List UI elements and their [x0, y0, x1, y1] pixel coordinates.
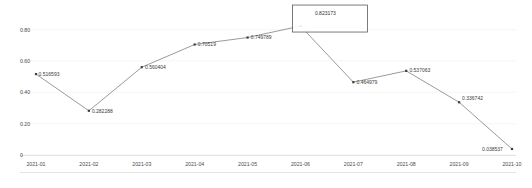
- data-point-marker[interactable]: [141, 66, 143, 68]
- chart-plot-area: 00.200.400.600.80 2021-012021-022021-032…: [0, 0, 532, 188]
- line-chart-container: 00.200.400.600.80 2021-012021-022021-032…: [0, 0, 532, 188]
- data-point-label: 0.70519: [198, 41, 216, 47]
- y-axis-tick-label: 0.60: [20, 58, 30, 64]
- x-axis-tick-label: 2021-03: [132, 161, 151, 167]
- x-axis-tick-label: 2021-06: [291, 161, 310, 167]
- x-axis-tick-label: 2021-07: [344, 161, 363, 167]
- x-axis-tick-label: 2021-05: [238, 161, 257, 167]
- x-axis-tick-label: 2021-08: [397, 161, 416, 167]
- data-point-marker[interactable]: [194, 43, 196, 45]
- x-tick-labels-group: 2021-012021-022021-032021-042021-052021-…: [26, 161, 521, 167]
- data-point-label: 0.336742: [462, 95, 483, 101]
- x-axis-tick-label: 2021-01: [26, 161, 45, 167]
- data-point-label: 0.560404: [145, 64, 166, 70]
- data-point-marker[interactable]: [458, 101, 460, 103]
- highlight-selection-label: 0.823173: [315, 10, 336, 16]
- gridlines-group: [20, 30, 516, 155]
- data-point-label: 0.038537: [482, 146, 503, 152]
- x-axis-tick-label: 2021-09: [450, 161, 469, 167]
- data-point-marker[interactable]: [35, 73, 37, 75]
- y-tick-labels-group: 00.200.400.600.80: [20, 27, 30, 158]
- y-axis-tick-label: 0.40: [20, 89, 30, 95]
- data-point-label: 0.464979: [357, 79, 378, 85]
- data-point-label: 0.749789: [251, 34, 272, 40]
- y-axis-tick-label: 0.80: [20, 27, 30, 33]
- data-point-marker[interactable]: [88, 110, 90, 112]
- data-point-marker[interactable]: [352, 81, 354, 83]
- data-markers-group: [35, 25, 513, 150]
- data-point-marker[interactable]: [511, 148, 513, 150]
- data-point-label: 0.282288: [92, 108, 113, 114]
- data-point-labels-group: 0.5165930.2822880.5604040.705190.7497890…: [39, 34, 503, 151]
- data-point-marker[interactable]: [246, 36, 248, 38]
- data-point-marker[interactable]: [405, 70, 407, 72]
- series-line-path: [36, 26, 512, 149]
- x-axis-tick-label: 2021-10: [502, 161, 521, 167]
- y-axis-tick-label: 0: [20, 152, 23, 158]
- data-point-label: 0.516593: [39, 71, 60, 77]
- y-axis-tick-label: 0.20: [20, 121, 30, 127]
- x-axis-tick-label: 2021-04: [185, 161, 204, 167]
- data-point-label: 0.537063: [409, 67, 430, 73]
- x-axis-tick-label: 2021-02: [79, 161, 98, 167]
